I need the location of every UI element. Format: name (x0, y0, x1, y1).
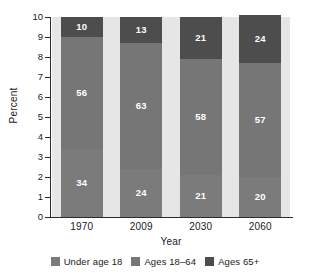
y-tick-label: 10 (32, 11, 43, 22)
bar-segment: 56 (61, 37, 103, 149)
x-axis-line (50, 217, 293, 218)
bar-segment-value: 24 (255, 34, 266, 44)
y-tick-mark (45, 217, 50, 218)
legend-swatch-icon (51, 257, 60, 266)
y-tick-mark (45, 37, 50, 38)
y-tick-mark (45, 157, 50, 158)
y-tick-mark (45, 97, 50, 98)
y-axis-title: Percent (8, 66, 19, 146)
bar-2060: 205724 (239, 17, 281, 217)
bar-segment-value: 58 (195, 112, 206, 122)
bar-segment: 63 (120, 43, 162, 169)
chart-legend: Under age 18Ages 18–64Ages 65+ (0, 256, 310, 267)
bar-segment-value: 10 (76, 22, 87, 32)
x-tick-label-2009: 2009 (111, 221, 171, 232)
bar-segment-value: 63 (136, 101, 147, 111)
bar-segment: 24 (120, 169, 162, 217)
bar-segment-value: 13 (136, 25, 147, 35)
y-tick-label: 3 (38, 151, 43, 162)
x-tick-label-1970: 1970 (52, 221, 112, 232)
y-tick-mark (45, 197, 50, 198)
bar-segment: 20 (239, 177, 281, 217)
y-tick-label: 6 (38, 91, 43, 102)
y-tick-mark (45, 117, 50, 118)
legend-item-0: Under age 18 (51, 256, 123, 267)
bar-segment: 58 (180, 59, 222, 175)
bar-segment-value: 21 (195, 191, 206, 201)
y-tick-label: 2 (38, 171, 43, 182)
y-tick-label: 7 (38, 71, 43, 82)
y-tick-mark (45, 137, 50, 138)
bar-segment: 21 (180, 175, 222, 217)
bar-segment-value: 57 (255, 115, 266, 125)
legend-swatch-icon (205, 257, 214, 266)
y-tick-label: 0 (38, 211, 43, 222)
y-tick-mark (45, 57, 50, 58)
bar-segment: 34 (61, 149, 103, 217)
x-tick-label-2060: 2060 (230, 221, 290, 232)
x-tick-label-2030: 2030 (171, 221, 231, 232)
bar-segment: 10 (61, 17, 103, 37)
bar-2030: 215821 (180, 17, 222, 217)
legend-label: Ages 18–64 (144, 256, 196, 267)
y-tick-mark (45, 17, 50, 18)
bar-segment-value: 24 (136, 188, 147, 198)
bar-segment: 21 (180, 17, 222, 59)
legend-label: Ages 65+ (218, 256, 259, 267)
y-tick-label: 9 (38, 31, 43, 42)
legend-item-2: Ages 65+ (205, 256, 259, 267)
bar-segment-value: 20 (255, 192, 266, 202)
bar-1970: 345610 (61, 17, 103, 217)
y-tick-label: 8 (38, 51, 43, 62)
legend-swatch-icon (131, 257, 140, 266)
y-tick-label: 4 (38, 131, 43, 142)
stacked-bar-chart: Percent 012345678910 3456102463132158212… (0, 0, 310, 273)
bar-segment: 13 (120, 17, 162, 43)
y-tick-mark (45, 177, 50, 178)
bar-segment-value: 56 (76, 88, 87, 98)
bar-segment: 57 (239, 63, 281, 177)
legend-label: Under age 18 (64, 256, 123, 267)
y-axis-line (50, 17, 51, 218)
bar-segment: 24 (239, 15, 281, 63)
legend-item-1: Ages 18–64 (131, 256, 196, 267)
x-axis-title: Year (52, 236, 290, 247)
bar-segment-value: 34 (76, 178, 87, 188)
bar-segment-value: 21 (195, 33, 206, 43)
plot-area: 345610246313215821205724 (52, 17, 290, 217)
y-tick-mark (45, 77, 50, 78)
bar-2009: 246313 (120, 17, 162, 217)
y-tick-label: 5 (38, 111, 43, 122)
y-tick-label: 1 (38, 191, 43, 202)
